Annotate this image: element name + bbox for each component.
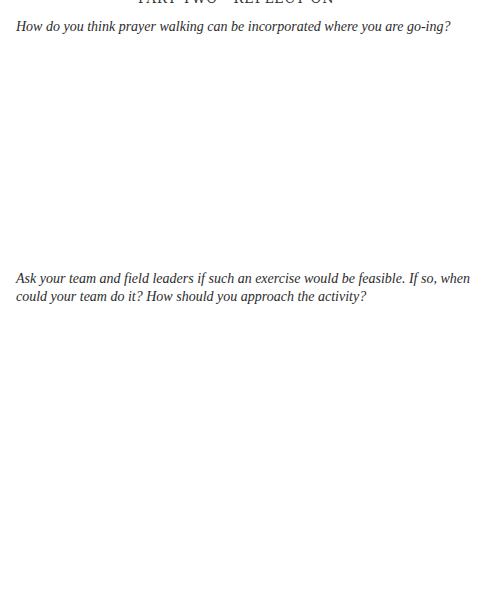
answer-space-1 [16, 56, 472, 256]
reflection-question-2: Ask your team and field leaders if such … [16, 270, 472, 306]
cutoff-header-line: PART TWO · REFLECT ON IT [138, 0, 338, 3]
answer-space-2 [16, 310, 472, 590]
reflection-question-1: How do you think prayer walking can be i… [16, 18, 472, 36]
